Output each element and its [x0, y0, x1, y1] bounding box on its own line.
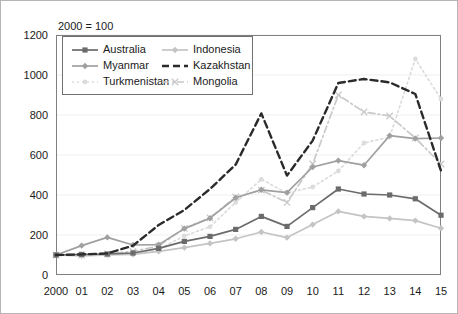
- data-point-marker: [208, 224, 213, 229]
- data-point-marker: [310, 185, 315, 190]
- data-point-marker: [335, 92, 341, 98]
- data-point-marker: [83, 80, 88, 85]
- x-tick-label: 07: [230, 285, 242, 297]
- data-point-marker: [258, 229, 264, 235]
- data-point-marker: [387, 192, 392, 197]
- legend: AustraliaIndonesiaMyanmarKazakhstanTurkm…: [63, 37, 253, 95]
- data-point-marker: [361, 191, 366, 196]
- data-point-marker: [362, 141, 367, 146]
- data-point-marker: [336, 186, 341, 191]
- data-point-marker: [284, 199, 290, 205]
- data-point-marker: [259, 177, 264, 182]
- base-year-note: 2000 = 100: [58, 20, 113, 32]
- data-point-marker: [361, 213, 367, 219]
- y-tick-label: 1000: [24, 69, 48, 81]
- series-line: [56, 189, 441, 255]
- x-tick-label: 14: [409, 285, 421, 297]
- data-point-marker: [284, 224, 289, 229]
- x-tick-label: 01: [76, 285, 88, 297]
- x-tick-label: 06: [204, 285, 216, 297]
- data-point-marker: [412, 217, 418, 223]
- data-point-marker: [207, 234, 212, 239]
- x-tick-label: 11: [333, 285, 344, 297]
- y-tick-label: 800: [30, 109, 48, 121]
- series-kazakhstan: [56, 79, 441, 255]
- line-chart: 020040060080010001200 200001020304050607…: [0, 0, 458, 314]
- x-tick-label: 04: [153, 285, 165, 297]
- data-point-marker: [413, 57, 418, 62]
- data-point-marker: [78, 242, 84, 248]
- x-tick-label: 09: [281, 285, 293, 297]
- x-axis-tick-labels: 2000010203040506070809101112131415: [44, 285, 447, 297]
- data-point-marker: [413, 196, 418, 201]
- data-point-marker: [336, 169, 341, 174]
- data-point-marker: [233, 227, 238, 232]
- data-point-marker: [309, 221, 315, 227]
- legend-label: Turkmenistan: [103, 75, 169, 87]
- x-tick-label: 12: [358, 285, 370, 297]
- series-line: [56, 79, 441, 255]
- data-point-marker: [259, 214, 264, 219]
- legend-label: Indonesia: [193, 43, 242, 55]
- x-tick-label: 13: [384, 285, 396, 297]
- data-point-marker: [207, 240, 213, 246]
- legend-label: Kazakhstan: [193, 59, 250, 71]
- series-line: [56, 95, 441, 255]
- x-tick-label: 2000: [44, 285, 68, 297]
- data-point-marker: [82, 47, 87, 52]
- data-point-marker: [310, 205, 315, 210]
- legend-label: Myanmar: [103, 59, 149, 71]
- data-point-marker: [181, 244, 187, 250]
- y-tick-label: 0: [42, 269, 48, 281]
- x-tick-label: 08: [255, 285, 267, 297]
- data-point-marker: [335, 208, 341, 214]
- y-tick-label: 200: [30, 229, 48, 241]
- data-point-marker: [335, 157, 341, 163]
- data-point-marker: [182, 239, 187, 244]
- y-tick-label: 600: [30, 149, 48, 161]
- series-line: [56, 211, 441, 256]
- data-point-marker: [438, 135, 444, 141]
- x-tick-label: 05: [178, 285, 190, 297]
- x-tick-label: 10: [307, 285, 319, 297]
- y-axis-tick-labels: 020040060080010001200: [24, 29, 48, 281]
- x-tick-label: 15: [435, 285, 447, 297]
- y-tick-label: 1200: [24, 29, 48, 41]
- data-point-marker: [130, 250, 135, 255]
- data-point-marker: [232, 236, 238, 242]
- chart-container: 020040060080010001200 200001020304050607…: [0, 0, 458, 314]
- data-point-marker: [438, 225, 444, 231]
- data-point-marker: [439, 97, 444, 102]
- data-point-marker: [386, 215, 392, 221]
- series-mongolia: [53, 92, 444, 258]
- series-australia: [53, 186, 443, 257]
- legend-label: Mongolia: [193, 75, 239, 87]
- x-tick-label: 03: [127, 285, 139, 297]
- data-point-marker: [361, 109, 367, 115]
- legend-label: Australia: [103, 43, 147, 55]
- data-point-marker: [182, 233, 187, 238]
- data-point-marker: [156, 246, 161, 251]
- x-tick-label: 02: [101, 285, 113, 297]
- y-tick-label: 400: [30, 189, 48, 201]
- data-point-marker: [438, 213, 443, 218]
